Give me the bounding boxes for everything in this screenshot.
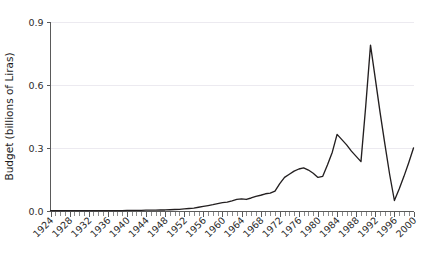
data-series-budget <box>51 45 414 210</box>
x-tick-labels: 1924192819321936194019441948195219561960… <box>31 215 419 240</box>
y-tick-label: 0.9 <box>28 17 43 28</box>
x-tick-label: 2000 <box>394 215 419 240</box>
x-tick-label: 1996 <box>374 215 399 240</box>
x-tick-label: 1924 <box>31 215 56 240</box>
x-tick-label: 1984 <box>317 215 342 240</box>
y-axis-title: Budget (billions of Liras) <box>3 53 15 181</box>
y-axis-title-text: Budget (billions of Liras) <box>3 53 15 181</box>
x-tick-label: 1964 <box>222 215 247 240</box>
x-tick-label: 1956 <box>183 215 208 240</box>
x-tick-label: 1968 <box>241 215 266 240</box>
gridlines <box>51 23 414 149</box>
series-line-budget <box>51 45 414 210</box>
y-tick-label: 0.3 <box>28 143 43 154</box>
x-tick-label: 1932 <box>69 215 94 240</box>
y-tick-label: 0.0 <box>28 206 43 217</box>
y-tick-label: 0.6 <box>28 80 43 91</box>
x-tick-label: 1940 <box>107 215 132 240</box>
x-tick-label: 1948 <box>145 215 170 240</box>
y-axis <box>47 22 51 212</box>
x-tick-label: 1972 <box>260 215 285 240</box>
x-tick-label: 1928 <box>50 215 75 240</box>
x-tick-label: 1992 <box>355 215 380 240</box>
x-tick-label: 1980 <box>298 215 323 240</box>
x-tick-label: 1976 <box>279 215 304 240</box>
y-tick-labels: 0.00.30.60.9 <box>28 17 43 217</box>
x-tick-label: 1944 <box>126 215 151 240</box>
x-tick-label: 1936 <box>88 215 113 240</box>
line-chart: 0.00.30.60.9 192419281932193619401944194… <box>0 0 428 259</box>
x-tick-label: 1952 <box>164 215 189 240</box>
x-tick-label: 1960 <box>202 215 227 240</box>
x-tick-label: 1988 <box>336 215 361 240</box>
chart-container: 0.00.30.60.9 192419281932193619401944194… <box>0 0 428 259</box>
